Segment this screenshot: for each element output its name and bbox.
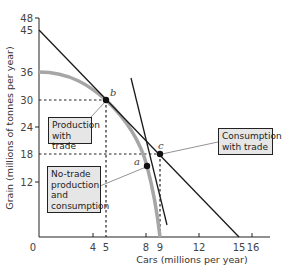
y-tick-48: 48 — [20, 13, 33, 24]
callout-c-line2: with trade — [222, 142, 269, 153]
callout-consumption-with-trade: Consumption with trade — [218, 128, 273, 155]
origin-label: 0 — [30, 242, 36, 253]
x-tick-5: 5 — [103, 242, 109, 253]
point-b — [103, 97, 109, 103]
y-tick-24: 24 — [20, 122, 33, 133]
x-ticks — [93, 233, 252, 237]
y-tick-45: 45 — [20, 25, 33, 36]
x-tick-4: 4 — [90, 242, 96, 253]
point-c-label: c — [158, 140, 164, 151]
x-tick-12: 12 — [193, 242, 206, 253]
callout-b-line2: with trade — [52, 131, 88, 152]
callout-b-line1: Production — [52, 120, 88, 131]
point-a-label: a — [134, 156, 140, 167]
callout-a-line3: and — [51, 190, 97, 201]
y-tick-12: 12 — [20, 177, 33, 188]
callout-a-line2: production — [51, 180, 97, 191]
x-tick-16: 16 — [247, 242, 260, 253]
point-c — [157, 151, 163, 157]
x-tick-8: 8 — [143, 242, 149, 253]
x-tick-15: 15 — [233, 242, 246, 253]
callout-c-line1: Consumption — [222, 131, 269, 142]
y-tick-36: 36 — [20, 67, 33, 78]
y-ticks — [35, 18, 39, 182]
callout-a-line4: consumption — [51, 201, 97, 212]
point-b-label: b — [110, 87, 116, 98]
callout-production-with-trade: Production with trade — [48, 117, 92, 144]
x-axis-label: Cars (millions per year) — [136, 254, 247, 265]
y-tick-18: 18 — [20, 149, 33, 160]
point-a — [144, 163, 150, 169]
callout-a-line1: No-trade — [51, 169, 97, 180]
x-tick-9: 9 — [157, 242, 163, 253]
y-tick-30: 30 — [20, 95, 33, 106]
y-axis-label: Grain (millions of tonnes per year) — [4, 46, 15, 209]
callout-no-trade: No-trade production and consumption — [47, 166, 101, 213]
